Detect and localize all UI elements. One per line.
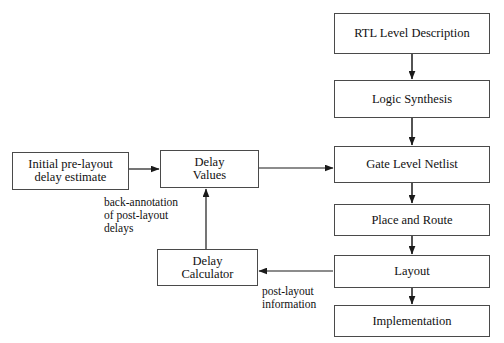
node-label: Initial pre-layout delay estimate bbox=[28, 158, 112, 184]
node-label: Layout bbox=[394, 265, 429, 278]
edge-label-post-layout-information: post-layout information bbox=[262, 285, 357, 311]
node-delay-calculator[interactable]: Delay Calculator bbox=[157, 249, 258, 286]
edge-label-back-annotation: back-annotation of post-layout delays bbox=[104, 196, 214, 235]
node-label: Gate Level Netlist bbox=[366, 158, 458, 171]
node-label: RTL Level Description bbox=[354, 27, 469, 40]
node-layout[interactable]: Layout bbox=[334, 255, 490, 288]
node-delay-values[interactable]: Delay Values bbox=[160, 150, 259, 188]
node-label: Delay Calculator bbox=[181, 255, 233, 281]
node-initial-pre-layout-delay-estimate[interactable]: Initial pre-layout delay estimate bbox=[12, 152, 129, 190]
node-implementation[interactable]: Implementation bbox=[334, 305, 490, 337]
node-gate-level-netlist[interactable]: Gate Level Netlist bbox=[334, 146, 490, 183]
flowchart-canvas: RTL Level Description Logic Synthesis Ga… bbox=[0, 0, 504, 343]
node-label: Implementation bbox=[372, 315, 451, 328]
node-logic-synthesis[interactable]: Logic Synthesis bbox=[334, 80, 490, 118]
node-label: Delay Values bbox=[193, 156, 226, 182]
node-label: Place and Route bbox=[371, 214, 452, 227]
node-label: Logic Synthesis bbox=[372, 93, 452, 106]
node-rtl-level-description[interactable]: RTL Level Description bbox=[334, 13, 490, 54]
node-place-and-route[interactable]: Place and Route bbox=[334, 204, 490, 236]
